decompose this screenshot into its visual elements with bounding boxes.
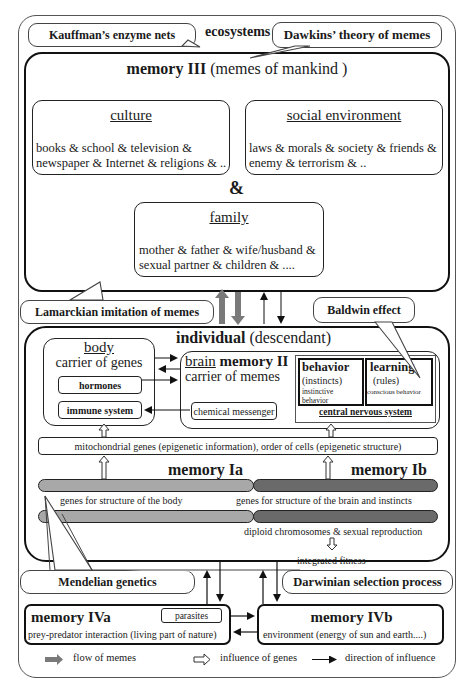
legend-meme-arrow-icon <box>45 654 63 665</box>
callout-tails <box>45 40 420 573</box>
connectors-layer <box>0 0 473 683</box>
legend-gene-arrow-icon <box>194 654 210 665</box>
gene-influence-arrows <box>99 424 337 550</box>
meme-flow-arrows <box>215 289 245 325</box>
